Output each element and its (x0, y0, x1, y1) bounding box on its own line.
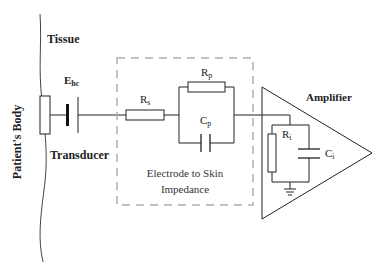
ground-icon (284, 182, 296, 195)
tissue-boundary (40, 14, 46, 262)
rs-label: Rs (140, 93, 150, 107)
box-caption-line2: Impedance (161, 183, 209, 195)
box-caption-line1: Electrode to Skin (147, 167, 224, 179)
transducer-label: Transducer (50, 148, 110, 162)
ehc-label: Ehc (64, 74, 80, 88)
resistor-rs (126, 110, 164, 120)
rp-label: Rp (201, 66, 212, 80)
patients-body-label: Patient's Body (10, 105, 24, 179)
transducer-electrode (40, 96, 50, 134)
cp-label: Cp (200, 114, 211, 128)
battery-thick-plate (66, 104, 69, 126)
resistor-ri (268, 134, 276, 172)
circuit-diagram: Patient's Body Tissue Ehc Transducer Rs … (0, 0, 388, 272)
amplifier-triangle (262, 87, 372, 219)
tissue-label: Tissue (47, 32, 80, 46)
ci-label: Ci (325, 147, 335, 161)
resistor-rp (188, 82, 225, 92)
ri-label: Ri (282, 128, 292, 142)
amplifier-label: Amplifier (306, 91, 352, 103)
